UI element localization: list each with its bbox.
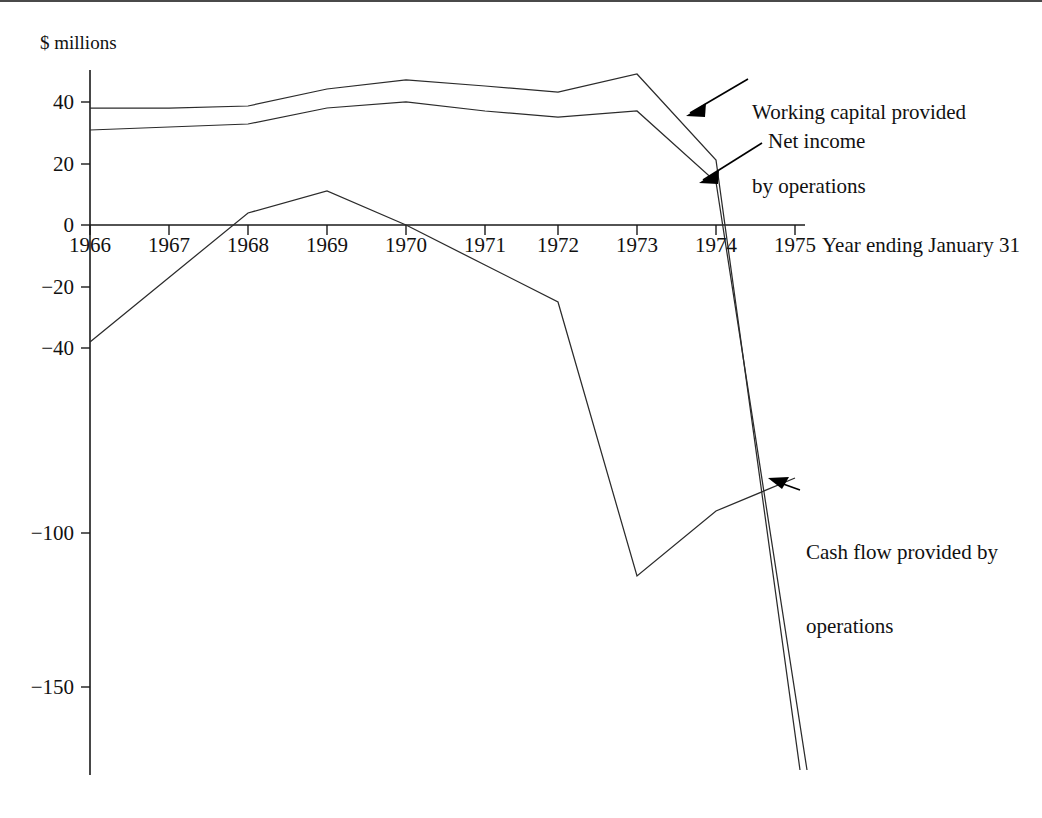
y-tick-label-minus-40: −40 [10,336,74,361]
y-axis-ticks [81,102,90,687]
annotation-working-capital-line2: by operations [752,174,966,199]
y-tick-label-40: 40 [10,90,74,115]
y-tick-label-20: 20 [10,152,74,177]
annotation-working-capital-line1: Working capital provided [752,100,966,125]
y-tick-label-minus-20: −20 [10,275,74,300]
x-tick-label-1974: 1974 [676,233,756,258]
x-tick-label-1968: 1968 [208,233,288,258]
x-tick-label-1967: 1967 [129,233,209,258]
y-tick-label-minus-100: −100 [10,521,74,546]
x-tick-label-1969: 1969 [287,233,367,258]
x-tick-label-1973: 1973 [597,233,677,258]
x-tick-label-1971: 1971 [445,233,525,258]
x-tick-label-1972: 1972 [518,233,598,258]
leader-working-capital [686,79,748,117]
leader-cash-flow [768,477,800,490]
x-tick-label-1966: 1966 [50,233,130,258]
annotation-cash-flow-line2: operations [806,614,998,639]
chart-figure: $ millions [0,0,1042,818]
series-line-working-capital [90,74,800,770]
series-line-net-income [90,102,807,770]
annotation-cash-flow: Cash flow provided by operations [806,490,998,688]
annotation-cash-flow-line1: Cash flow provided by [806,540,998,565]
x-tick-label-1970: 1970 [366,233,446,258]
y-tick-label-minus-150: −150 [10,675,74,700]
annotation-net-income: Net income [768,129,865,154]
